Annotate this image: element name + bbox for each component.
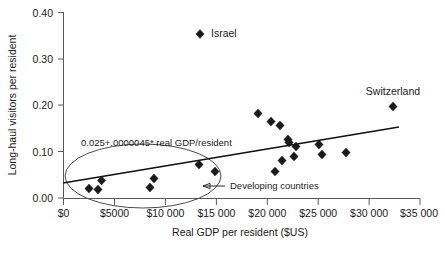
y-tick-labels: 0.40 0.30 0.20 0.10 0.00 <box>33 7 54 205</box>
data-point <box>211 167 219 176</box>
scatter-chart: 0.40 0.30 0.20 0.10 0.00 $0 $5000 $10 00… <box>0 0 445 254</box>
chart-canvas: 0.40 0.30 0.20 0.10 0.00 $0 $5000 $10 00… <box>0 0 445 254</box>
data-point <box>276 121 284 130</box>
point-label-switzerland: Switzerland <box>366 85 420 97</box>
point-label-israel: Israel <box>211 27 237 39</box>
data-point <box>150 174 158 183</box>
axis-group <box>58 12 420 205</box>
data-point <box>85 184 93 193</box>
x-tick-marks <box>64 199 421 206</box>
x-tick-label-7: $35 000 <box>400 207 438 219</box>
y-tick-label-0: 0.00 <box>33 192 54 204</box>
data-point <box>318 150 326 159</box>
x-axis-title: Real GDP per resident ($US) <box>172 226 308 238</box>
y-tick-label-4: 0.40 <box>33 7 54 19</box>
y-tick-marks <box>58 13 64 199</box>
data-point <box>278 156 286 165</box>
data-point <box>342 148 350 157</box>
data-point-switzerland <box>389 102 397 111</box>
x-tick-label-0: $0 <box>58 207 70 219</box>
x-tick-label-4: $20 000 <box>248 207 286 219</box>
x-tick-label-5: $25 000 <box>299 207 337 219</box>
developing-countries-label: Developing countries <box>230 180 319 191</box>
y-tick-label-1: 0.10 <box>33 146 54 158</box>
data-point <box>290 152 298 161</box>
data-point <box>94 185 102 194</box>
data-point <box>267 117 275 126</box>
y-axis-title: Long-haul visitors per resident <box>6 35 18 176</box>
regression-trend-line <box>63 127 399 183</box>
data-point-group <box>85 30 397 195</box>
x-tick-label-2: $10 000 <box>146 207 184 219</box>
y-tick-label-3: 0.30 <box>33 53 54 65</box>
regression-equation-label: 0.025+.0000045* real GDP/resident <box>81 137 232 148</box>
x-tick-label-1: $5000 <box>100 207 129 219</box>
x-tick-label-3: $15 000 <box>197 207 235 219</box>
data-point-israel <box>196 30 204 39</box>
data-point <box>271 167 279 176</box>
data-point <box>146 183 154 192</box>
data-point <box>254 109 262 118</box>
x-tick-label-6: $30 000 <box>350 207 388 219</box>
x-tick-labels: $0 $5000 $10 000 $15 000 $20 000 $25 000… <box>58 207 438 219</box>
y-tick-label-2: 0.20 <box>33 99 54 111</box>
